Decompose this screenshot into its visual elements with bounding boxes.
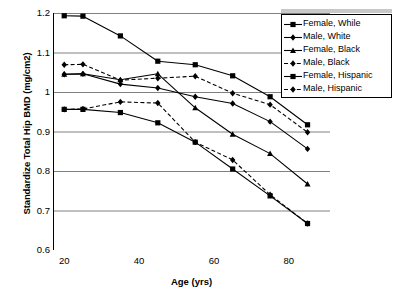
legend-item-label: Female, While — [303, 17, 361, 30]
series-2 — [61, 71, 310, 187]
data-point-marker — [155, 85, 160, 91]
legend-item-2[interactable]: Female, Black — [283, 43, 389, 56]
data-point-marker — [62, 13, 67, 18]
data-point-marker — [290, 86, 295, 92]
data-point-marker — [62, 62, 67, 68]
x-axis-ticks: 20406080 — [0, 255, 396, 269]
x-tick-label: 20 — [49, 255, 79, 266]
y-tick-label: 0.9 — [24, 128, 50, 136]
data-point-marker — [155, 120, 160, 125]
data-point-marker — [193, 94, 198, 100]
legend-item-label: Male, White — [303, 30, 351, 43]
data-point-marker — [118, 33, 123, 38]
data-point-marker — [80, 61, 85, 67]
data-point-marker — [230, 73, 235, 78]
bmd-line-chart: Standardize Total Hip BMD (mg/cm2) 0.60.… — [0, 0, 396, 297]
data-point-marker — [290, 74, 295, 79]
data-point-marker — [118, 99, 123, 105]
data-point-marker — [193, 73, 198, 79]
data-point-marker — [118, 77, 123, 83]
series-4 — [62, 107, 311, 226]
series-line — [64, 16, 307, 125]
y-tick-label: 0.6 — [24, 246, 50, 254]
legend-key-icon — [283, 82, 303, 95]
data-point-marker — [267, 151, 273, 157]
data-point-marker — [230, 166, 235, 171]
data-point-marker — [230, 90, 235, 96]
data-point-marker — [267, 101, 272, 107]
legend-item-label: Female, Hispanic — [303, 69, 373, 82]
chart-legend: Female, WhileMale, WhiteFemale, BlackMal… — [281, 14, 392, 98]
data-point-marker — [290, 60, 295, 66]
legend-item-4[interactable]: Female, Hispanic — [283, 69, 389, 82]
legend-key-icon — [283, 69, 303, 82]
legend-item-3[interactable]: Male, Black — [283, 56, 389, 69]
y-tick-label: 0.7 — [24, 207, 50, 215]
series-1 — [62, 71, 311, 152]
data-point-marker — [305, 129, 310, 135]
x-axis-title: Age (yrs) — [53, 276, 330, 287]
data-point-marker — [290, 22, 295, 27]
data-point-marker — [80, 14, 85, 19]
data-point-marker — [193, 62, 198, 67]
data-point-marker — [305, 122, 310, 127]
data-point-marker — [268, 94, 273, 99]
series-line — [64, 74, 307, 184]
legend-item-label: Male, Black — [303, 56, 350, 69]
y-tick-label: 1 — [24, 88, 50, 96]
data-point-marker — [155, 59, 160, 64]
legend-key-icon — [283, 30, 303, 43]
legend-key-icon — [283, 17, 303, 30]
data-point-marker — [290, 34, 295, 40]
x-tick-label: 80 — [274, 255, 304, 266]
x-tick-label: 60 — [199, 255, 229, 266]
legend-item-label: Male, Hispanic — [303, 82, 362, 95]
series-line — [64, 109, 307, 223]
data-point-marker — [118, 110, 123, 115]
legend-item-1[interactable]: Male, White — [283, 30, 389, 43]
y-tick-label: 0.8 — [24, 167, 50, 175]
legend-item-label: Female, Black — [303, 43, 360, 56]
y-tick-label: 1.1 — [24, 49, 50, 57]
legend-key-icon — [283, 43, 303, 56]
data-point-marker — [305, 146, 310, 152]
legend-item-0[interactable]: Female, While — [283, 17, 389, 30]
legend-key-icon — [283, 56, 303, 69]
legend-item-5[interactable]: Male, Hispanic — [283, 82, 389, 95]
y-tick-label: 1.2 — [24, 9, 50, 17]
y-axis-ticks: 0.60.70.80.911.11.2 — [20, 0, 50, 297]
x-tick-label: 40 — [124, 255, 154, 266]
series-5 — [62, 99, 311, 227]
data-point-marker — [230, 100, 235, 106]
data-point-marker — [267, 118, 272, 124]
